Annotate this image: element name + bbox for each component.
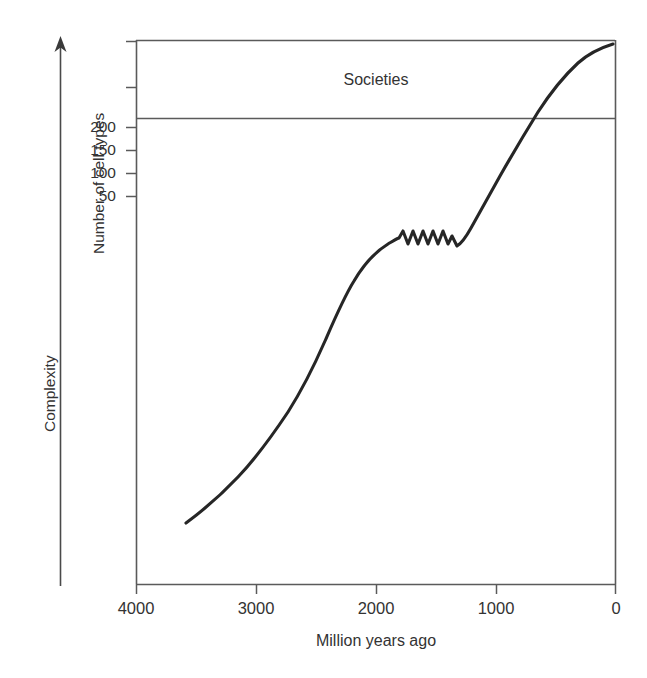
plot-frame	[136, 40, 616, 585]
complexity-vs-time-line-chart	[0, 0, 647, 678]
societies-band-label: Societies	[276, 72, 476, 88]
xtick-label-4000: 4000	[96, 600, 176, 617]
xtick-label-1000: 1000	[456, 600, 536, 617]
x-axis-title: Million years ago	[226, 633, 526, 649]
complexity-axis-title: Complexity	[42, 355, 58, 432]
cell-types-curve	[186, 44, 613, 523]
xtick-label-2000: 2000	[336, 600, 416, 617]
complexity-arrow-axis	[55, 36, 67, 586]
y-axis-ticks	[126, 42, 136, 197]
xtick-label-0: 0	[576, 600, 647, 617]
chart-figure: 200 150 100 50 4000 3000 2000 1000 0 Mil…	[0, 0, 647, 678]
x-axis-ticks	[137, 584, 616, 594]
xtick-label-3000: 3000	[216, 600, 296, 617]
y-axis-title: Number of cell types	[91, 113, 107, 254]
